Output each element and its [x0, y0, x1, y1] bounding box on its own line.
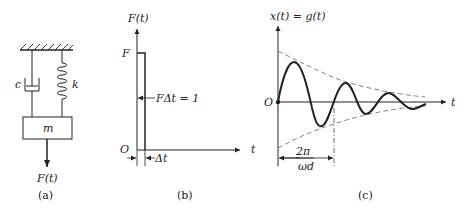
figure-canvas: c k m F(t) (a) F(t) t O F FΔt = 1 Δt (b)	[0, 0, 467, 215]
width-dimension	[127, 150, 155, 166]
spring-label: k	[72, 78, 79, 91]
x-axis-label: t	[451, 96, 456, 109]
impulse-pulse	[137, 53, 145, 150]
force-label: F(t)	[36, 172, 58, 185]
period-numerator: 2π	[295, 145, 311, 158]
caption-a: (a)	[38, 189, 53, 202]
response-curve	[278, 62, 426, 126]
panel-c: x(t) = g(t) t O 2π ωd (c)	[264, 10, 456, 202]
panel-b: F(t) t O F FΔt = 1 Δt (b)	[120, 12, 256, 202]
mass-label: m	[43, 122, 53, 135]
origin-label: O	[264, 96, 273, 109]
origin-label: O	[120, 143, 129, 156]
width-label: Δt	[154, 152, 168, 165]
x-axis-label: t	[251, 143, 256, 156]
caption-b: (b)	[177, 189, 193, 202]
ceiling	[20, 44, 73, 50]
y-axis-label: x(t) = g(t)	[270, 10, 325, 23]
period-denominator: ωd	[298, 160, 314, 173]
damper	[25, 50, 39, 117]
damper-label: c	[15, 78, 21, 91]
area-label: FΔt = 1	[155, 92, 199, 105]
spring	[58, 50, 67, 117]
y-axis-label: F(t)	[127, 12, 149, 25]
panel-a: c k m F(t) (a)	[15, 44, 79, 202]
caption-c: (c)	[358, 189, 373, 202]
height-label: F	[121, 47, 130, 60]
